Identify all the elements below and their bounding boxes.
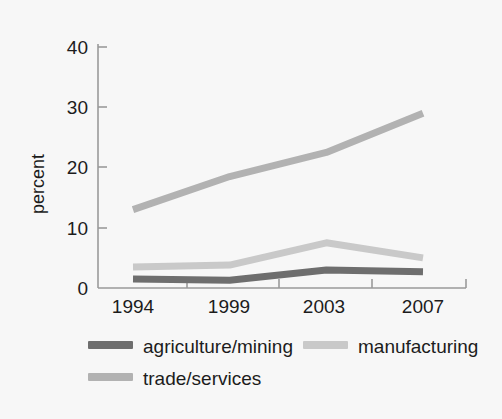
- y-tick-label-40: 40: [67, 37, 88, 58]
- y-tick-label-20: 20: [67, 157, 88, 178]
- x-tick-label-2003: 2003: [303, 296, 345, 317]
- x-tick-label-1994: 1994: [112, 296, 155, 317]
- line-chart: 40 30 20 10 0 1994 1999 2003 2007 percen…: [0, 0, 502, 419]
- legend-swatch-manufacturing: [303, 341, 348, 349]
- legend-swatch-agriculture-mining: [88, 341, 133, 349]
- y-tick-label-10: 10: [67, 218, 88, 239]
- legend-label-manufacturing: manufacturing: [358, 336, 478, 357]
- legend-label-agriculture-mining: agriculture/mining: [143, 336, 293, 357]
- y-tick-label-30: 30: [67, 97, 88, 118]
- y-tick-label-0: 0: [77, 278, 88, 299]
- legend-swatch-trade-services: [88, 373, 133, 381]
- legend-label-trade-services: trade/services: [143, 368, 261, 389]
- x-tick-label-2007: 2007: [402, 296, 444, 317]
- chart-canvas: 40 30 20 10 0 1994 1999 2003 2007 percen…: [0, 0, 502, 419]
- y-axis-title: percent: [28, 154, 48, 214]
- x-tick-label-1999: 1999: [208, 296, 250, 317]
